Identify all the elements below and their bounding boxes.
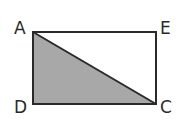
label-c: C: [160, 97, 172, 117]
label-e: E: [160, 18, 171, 38]
label-d: D: [14, 97, 27, 117]
label-a: A: [14, 18, 26, 38]
geometry-diagram: A E D C: [0, 0, 182, 121]
